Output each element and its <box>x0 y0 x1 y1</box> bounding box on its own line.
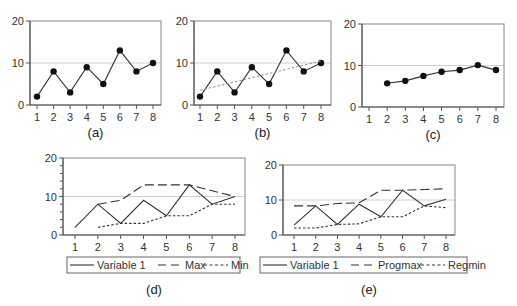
x-tick-label: 2 <box>313 241 319 253</box>
x-tick-label: 5 <box>378 241 384 253</box>
data-point-marker <box>438 69 444 75</box>
y-tick-label: 0 <box>18 99 24 111</box>
y-tick-label: 0 <box>350 101 356 113</box>
legend-label: Variable 1 <box>290 259 339 271</box>
y-tick-label: 0 <box>271 229 277 241</box>
x-tick-label: 1 <box>34 111 40 123</box>
x-tick-label: 5 <box>266 111 272 123</box>
x-tick-label: 3 <box>67 111 73 123</box>
chart-panel-figure: 0102012345678(a)0102012345678(b)01020123… <box>0 0 517 306</box>
y-tick-label: 20 <box>344 18 356 30</box>
x-tick-label: 2 <box>51 111 57 123</box>
data-point-marker <box>493 67 499 73</box>
x-tick-label: 3 <box>232 111 238 123</box>
series-max <box>98 185 235 204</box>
y-tick-label: 10 <box>344 60 356 72</box>
legend-label: Progmax <box>378 259 423 271</box>
x-tick-label: 6 <box>186 241 192 253</box>
series-regmin <box>294 206 446 228</box>
data-point-marker <box>67 89 73 95</box>
chart-b: 0102012345678(b) <box>176 15 331 140</box>
chart-caption: (b) <box>255 125 271 140</box>
y-tick-label: 10 <box>176 57 188 69</box>
y-tick-label: 20 <box>265 159 277 171</box>
legend: Variable 1ProgmaxRegmin <box>260 257 486 273</box>
series-variable-1 <box>75 185 235 227</box>
legend-label: Variable 1 <box>97 259 146 271</box>
x-tick-label: 8 <box>443 241 449 253</box>
legend-label: Max <box>185 259 206 271</box>
data-point-marker <box>50 68 56 74</box>
x-tick-label: 1 <box>72 241 78 253</box>
chart-caption: (d) <box>146 282 162 297</box>
data-point-marker <box>100 81 106 87</box>
data-point-marker <box>133 68 139 74</box>
legend-label: Regmin <box>448 259 486 271</box>
data-point-marker <box>301 68 307 74</box>
data-point-marker <box>249 64 255 70</box>
data-point-marker <box>117 47 123 53</box>
y-tick-label: 10 <box>12 57 24 69</box>
x-tick-label: 2 <box>384 113 390 125</box>
x-tick-label: 5 <box>439 113 445 125</box>
x-tick-label: 2 <box>95 241 101 253</box>
chart-caption: (c) <box>425 127 440 142</box>
x-tick-label: 8 <box>232 241 238 253</box>
data-point-marker <box>384 80 390 86</box>
x-tick-label: 6 <box>283 111 289 123</box>
data-point-marker <box>283 47 289 53</box>
x-tick-label: 7 <box>475 113 481 125</box>
y-tick-label: 20 <box>176 15 188 27</box>
y-tick-label: 0 <box>182 99 188 111</box>
x-tick-label: 6 <box>117 111 123 123</box>
chart-e: 0102012345678Variable 1ProgmaxRegmin(e) <box>260 159 486 297</box>
data-point-marker <box>150 60 156 66</box>
chart-caption: (e) <box>361 282 377 297</box>
data-point-marker <box>214 68 220 74</box>
x-tick-label: 7 <box>209 241 215 253</box>
x-tick-label: 4 <box>141 241 147 253</box>
legend: Variable 1MaxMin <box>67 257 249 273</box>
data-point-marker <box>231 89 237 95</box>
x-tick-label: 3 <box>118 241 124 253</box>
chart-c: 0102012345678(c) <box>344 18 504 142</box>
y-tick-label: 20 <box>45 152 57 164</box>
series-progmax <box>294 189 446 206</box>
x-tick-label: 1 <box>197 111 203 123</box>
x-tick-label: 5 <box>163 241 169 253</box>
x-tick-label: 3 <box>402 113 408 125</box>
x-tick-label: 4 <box>420 113 426 125</box>
chart-a: 0102012345678(a) <box>12 15 161 140</box>
x-tick-label: 4 <box>84 111 90 123</box>
x-tick-label: 4 <box>356 241 362 253</box>
x-tick-label: 3 <box>334 241 340 253</box>
x-tick-label: 7 <box>301 111 307 123</box>
x-tick-label: 8 <box>493 113 499 125</box>
x-tick-label: 6 <box>457 113 463 125</box>
data-point-marker <box>84 64 90 70</box>
x-tick-label: 5 <box>100 111 106 123</box>
x-tick-label: 7 <box>421 241 427 253</box>
data-point-marker <box>457 67 463 73</box>
y-tick-label: 10 <box>265 194 277 206</box>
data-point-marker <box>475 62 481 68</box>
data-point-marker <box>318 60 324 66</box>
y-tick-label: 0 <box>51 229 57 241</box>
x-tick-label: 8 <box>150 111 156 123</box>
chart-d: 0102012345678Variable 1MaxMin(d) <box>45 152 249 297</box>
data-point-marker <box>420 73 426 79</box>
x-tick-label: 1 <box>291 241 297 253</box>
data-point-marker <box>266 81 272 87</box>
x-tick-label: 8 <box>318 111 324 123</box>
x-tick-label: 4 <box>249 111 255 123</box>
data-point-marker <box>197 93 203 99</box>
x-tick-label: 1 <box>366 113 372 125</box>
y-tick-label: 10 <box>45 191 57 203</box>
x-tick-label: 2 <box>214 111 220 123</box>
data-point-marker <box>34 93 40 99</box>
legend-label: Min <box>231 259 249 271</box>
data-point-marker <box>402 78 408 84</box>
x-tick-label: 7 <box>133 111 139 123</box>
chart-caption: (a) <box>88 125 104 140</box>
x-tick-label: 6 <box>400 241 406 253</box>
